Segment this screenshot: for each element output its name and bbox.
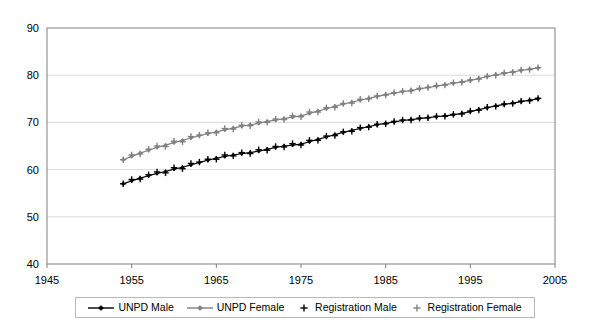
chart-container: 405060708090 194519551965197519851995200… xyxy=(0,0,605,334)
x-tick-label-2005: 2005 xyxy=(543,274,567,286)
y-tick-label-40: 40 xyxy=(27,258,39,270)
y-tick-label-70: 70 xyxy=(27,116,39,128)
legend-label: Registration Female xyxy=(428,302,522,313)
legend-entry-registration-female[interactable]: Registration Female xyxy=(410,302,522,314)
legend-label: UNPD Female xyxy=(217,302,285,313)
y-tick-label-50: 50 xyxy=(27,211,39,223)
y-tick-label-90: 90 xyxy=(27,22,39,34)
x-tick-label-1985: 1985 xyxy=(373,274,397,286)
y-tick-label-60: 60 xyxy=(27,164,39,176)
y-tick-label-80: 80 xyxy=(27,69,39,81)
x-tick-label-1945: 1945 xyxy=(35,274,59,286)
x-axis-tick-labels: 1945195519651975198519952005 xyxy=(35,274,567,286)
plus-marker-icon xyxy=(297,302,311,314)
legend-entry-unpd-male[interactable]: UNPD Male xyxy=(88,302,173,314)
x-tick-label-1955: 1955 xyxy=(119,274,143,286)
x-tick-label-1995: 1995 xyxy=(458,274,482,286)
legend-label: UNPD Male xyxy=(118,302,173,313)
legend-entry-registration-male[interactable]: Registration Male xyxy=(297,302,397,314)
plus-glyph xyxy=(301,304,308,311)
diamond-glyph xyxy=(197,305,202,310)
plus-marker-icon xyxy=(410,302,424,314)
line-diamond-marker-icon xyxy=(187,302,213,314)
legend-entry-unpd-female[interactable]: UNPD Female xyxy=(187,302,285,314)
chart-plot-area: 405060708090 194519551965197519851995200… xyxy=(0,0,605,334)
legend-label: Registration Male xyxy=(315,302,397,313)
x-axis-tick-marks xyxy=(47,264,555,268)
diamond-glyph xyxy=(99,305,104,310)
x-tick-label-1975: 1975 xyxy=(289,274,313,286)
x-tick-label-1965: 1965 xyxy=(204,274,228,286)
line-diamond-marker-icon xyxy=(88,302,114,314)
plus-glyph xyxy=(413,304,420,311)
chart-legend: UNPD MaleUNPD FemaleRegistration MaleReg… xyxy=(75,297,535,318)
y-axis-tick-labels: 405060708090 xyxy=(27,22,39,270)
